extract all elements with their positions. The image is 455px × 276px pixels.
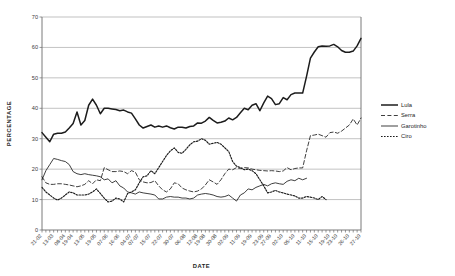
- legend-label-ciro: Ciro: [401, 133, 412, 139]
- x-axis-title: DATE: [193, 263, 211, 269]
- y-tick-label: 60: [32, 44, 38, 50]
- y-tick-label: 10: [32, 197, 38, 203]
- legend-label-lula: Lula: [401, 102, 413, 108]
- line-chart: 010203040506070 21-0213-0308-0419-0413-0…: [0, 0, 455, 276]
- y-tick-label: 50: [32, 75, 38, 81]
- legend-label-serra: Serra: [401, 112, 416, 118]
- legend-label-garotinho: Garotinho: [401, 123, 426, 129]
- y-tick-label: 70: [32, 14, 38, 20]
- y-tick-label: 40: [32, 105, 38, 111]
- chart-container: 010203040506070 21-0213-0308-0419-0413-0…: [0, 0, 455, 276]
- y-tick-label: 30: [32, 136, 38, 142]
- y-tick-label: 20: [32, 166, 38, 172]
- y-axis-title: PERCENTAGE: [6, 101, 12, 146]
